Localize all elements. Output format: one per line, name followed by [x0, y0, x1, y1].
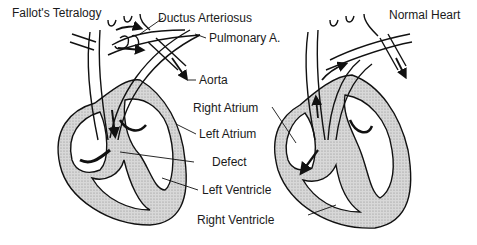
label-pulmonary-artery: Pulmonary A. — [209, 32, 280, 44]
label-right-ventricle: Right Ventricle — [197, 214, 274, 226]
fallot-title: Fallot's Tetralogy — [12, 7, 101, 19]
label-defect: Defect — [212, 156, 247, 168]
label-left-atrium: Left Atrium — [199, 128, 256, 140]
label-aorta: Aorta — [199, 74, 228, 86]
fallot-heart — [58, 14, 200, 225]
heart-comparison-diagram: Fallot's Tetralogy Normal Heart Ductus A… — [0, 0, 477, 245]
label-left-ventricle: Left Ventricle — [202, 184, 271, 196]
label-ductus-arteriosus: Ductus Arteriosus — [158, 12, 252, 24]
label-right-atrium: Right Atrium — [193, 102, 258, 114]
normal-heart-title: Normal Heart — [389, 9, 460, 21]
normal-heart — [275, 14, 412, 228]
